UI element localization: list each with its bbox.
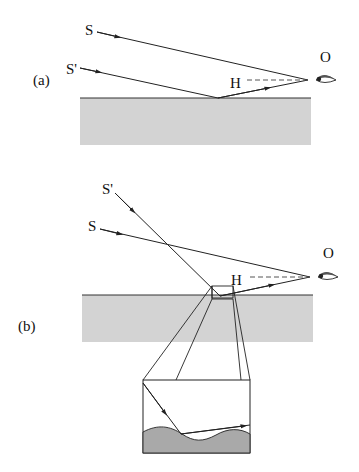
image-source-label-a: S' (66, 61, 77, 77)
direct-ray-arrow-b (100, 229, 120, 234)
incident-ray-arrow-a (80, 68, 99, 72)
direct-ray-b (100, 229, 310, 277)
magnified-inset (143, 380, 250, 453)
source-label-b: S (88, 218, 96, 234)
panel-a-label: (a) (33, 72, 50, 89)
direct-ray-a (97, 32, 308, 80)
image-source-label-b: S' (102, 181, 113, 197)
direct-ray-arrow-a (97, 32, 118, 37)
incident-ray-a (80, 68, 218, 98)
panel-a: (a) S S' H O (33, 22, 336, 145)
ground-surface-b (82, 295, 313, 342)
incident-ray-arrow-b (115, 193, 133, 211)
eye-icon (318, 272, 338, 280)
reflected-ray-arrow-b (220, 285, 272, 296)
panel-b: (b) S' S H O (18, 181, 338, 453)
observer-label-b: O (323, 245, 334, 261)
reflected-ray-arrow-a (218, 88, 268, 98)
horizon-label-a: H (230, 75, 241, 91)
mirage-ray-diagram: (a) S S' H O (b) S' (0, 0, 359, 472)
ground-surface-a (80, 98, 311, 145)
panel-b-label: (b) (18, 318, 36, 335)
source-label-a: S (85, 22, 93, 38)
eye-icon (316, 75, 336, 83)
observer-label-a: O (320, 49, 331, 65)
